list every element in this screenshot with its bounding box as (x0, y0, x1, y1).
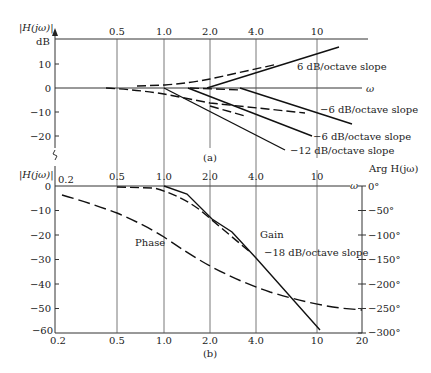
bottom-tick-1.0: 1.0 (156, 335, 172, 346)
y-tick-minus20: −20 (30, 230, 51, 241)
y-tick-right-300: −300° (368, 327, 400, 338)
slope-label: −18 dB/octave slope (264, 247, 369, 258)
y-tick-minus30: −30 (30, 254, 51, 265)
y-tick-minus40: −40 (30, 279, 51, 290)
annotation-minus12: −12 dB/octave slope (290, 145, 395, 156)
y-tick-minus20: −20 (30, 131, 51, 142)
top-tick-4.0: 4.0 (248, 171, 264, 182)
bottom-tick-2.0: 2.0 (202, 335, 218, 346)
y-tick-minus50: −50 (30, 303, 51, 314)
bottom-tick-10: 10 (311, 335, 324, 346)
caption-b: (b) (203, 348, 217, 359)
y-tick-0: 0 (45, 181, 51, 192)
omega-label: ω (366, 83, 374, 94)
bottom-y-label-left: |H(jω)| (19, 169, 54, 181)
bottom-tick-0.5: 0.5 (109, 335, 125, 346)
bode-diagram: |H(jω)| dB 10 0 −10 −20 0.5 1.0 2.0 4.0 … (0, 0, 431, 373)
y-tick-minus10: −10 (30, 205, 51, 216)
x-tick-1.0: 1.0 (156, 26, 172, 37)
y-tick-right-100: −100° (368, 230, 400, 241)
top-tick-1.0: 1.0 (156, 171, 172, 182)
y-tick-minus10: −10 (30, 107, 51, 118)
y-tick-right-0: 0° (368, 181, 379, 192)
bottom-tick-0.2: 0.2 (50, 335, 66, 346)
annotation-minus6-b: −6 dB/octave slope (313, 131, 411, 142)
y-tick-right-150: −150° (368, 254, 400, 265)
top-y-label: |H(jω)| (19, 22, 54, 34)
y-tick-10: 10 (38, 59, 51, 70)
x-tick-2.0: 2.0 (202, 26, 218, 37)
curve-plus6 (137, 64, 278, 86)
y-tick-0: 0 (45, 83, 51, 94)
axis-break-icon (53, 150, 57, 160)
top-tick-0.2: 0.2 (58, 174, 74, 185)
top-plot: |H(jω)| dB 10 0 −10 −20 0.5 1.0 2.0 4.0 … (19, 22, 418, 170)
x-tick-10: 10 (311, 26, 324, 37)
omega-label-bottom: ω (350, 180, 358, 191)
bottom-plot: |H(jω)| 0 −10 −20 −30 −40 −50 −60 Arg H(… (19, 163, 418, 359)
caption-a: (a) (203, 152, 217, 163)
bottom-tick-20: 20 (356, 335, 369, 346)
x-tick-4.0: 4.0 (248, 26, 264, 37)
phase-label: Phase (135, 237, 165, 248)
top-tick-2.0: 2.0 (202, 171, 218, 182)
y-tick-right-250: −250° (368, 303, 400, 314)
annotation-minus6-a: −6 dB/octave slope (320, 104, 418, 115)
y-tick-right-50: −50° (368, 205, 394, 216)
annotation-plus6: 6 dB/octave slope (297, 61, 387, 72)
top-tick-10: 10 (311, 171, 324, 182)
top-y-unit: dB (36, 36, 50, 47)
bottom-y-label-right: Arg H(jω) (368, 163, 418, 174)
gain-label: Gain (260, 229, 284, 240)
x-tick-0.5: 0.5 (109, 26, 125, 37)
bottom-tick-4.0: 4.0 (248, 335, 264, 346)
y-tick-right-200: −200° (368, 279, 400, 290)
top-tick-0.5: 0.5 (109, 171, 125, 182)
gain-curve (164, 186, 320, 330)
